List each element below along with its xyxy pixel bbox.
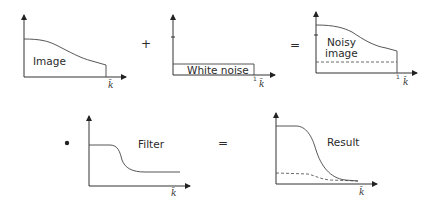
panel-image: Image k̄ [24, 15, 126, 90]
panel-noisy-image: Noisy image 1 k̄ [314, 12, 417, 87]
k-bar-label: k̄ [108, 79, 113, 90]
tick-label: 1 [396, 73, 400, 80]
equals-operator-2: = [218, 136, 228, 150]
filter-curve [89, 145, 180, 172]
diagram-canvas: Image k̄ + White noise 1 k̄ = Noisy imag… [0, 0, 437, 204]
k-bar-label: k̄ [403, 76, 408, 87]
plus-operator: + [141, 37, 151, 51]
panel-label: Result [327, 136, 359, 148]
panel-result: Result k̄ [276, 113, 377, 197]
panel-label: Image [33, 55, 66, 67]
equals-operator: = [290, 38, 300, 52]
k-bar-label: k̄ [259, 78, 264, 89]
k-bar-label: k̄ [171, 187, 176, 198]
multiply-operator [65, 141, 69, 145]
panel-label: Filter [138, 138, 165, 150]
panel-label: White noise [187, 64, 249, 76]
k-bar-label: k̄ [359, 186, 364, 197]
panel-label-line2: image [325, 47, 358, 59]
panel-white-noise: White noise 1 k̄ [171, 15, 275, 89]
tick-label: 1 [253, 75, 257, 82]
result-curve [276, 126, 358, 181]
panel-filter: Filter k̄ [89, 116, 190, 198]
